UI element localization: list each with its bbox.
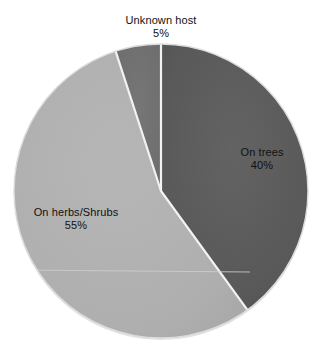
pie-chart: Unknown host 5% On trees 40% On herbs/Sh… — [0, 0, 322, 359]
pie-label-on-herbs-shrubs-value: 55% — [6, 219, 146, 232]
pie-chart-canvas — [0, 0, 322, 359]
pie-label-on-herbs-shrubs-name: On herbs/Shrubs — [6, 206, 146, 219]
pie-label-unknown-host: Unknown host 5% — [0, 14, 322, 40]
pie-label-unknown-host-value: 5% — [0, 27, 322, 40]
pie-label-on-trees: On trees 40% — [207, 146, 317, 172]
pie-label-on-herbs-shrubs: On herbs/Shrubs 55% — [6, 206, 146, 232]
pie-label-unknown-host-name: Unknown host — [0, 14, 322, 27]
pie-label-on-trees-name: On trees — [207, 146, 317, 159]
pie-label-on-trees-value: 40% — [207, 159, 317, 172]
